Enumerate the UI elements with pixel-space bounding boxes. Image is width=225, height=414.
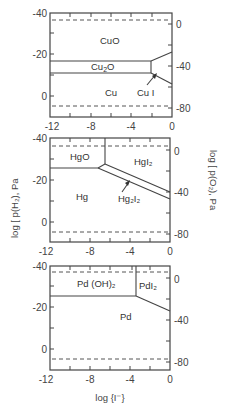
panel-frame <box>50 138 170 242</box>
x-tick-label: -8 <box>87 121 96 132</box>
y-right-tick-label: -40 <box>176 61 191 72</box>
boundary-hgo-hg2i2 <box>98 164 105 168</box>
y-right-tick-label: -80 <box>174 229 189 240</box>
x-tick-label: -8 <box>86 374 95 385</box>
y-right-tick-label: 0 <box>176 19 182 30</box>
y-left-tick-label: 0 <box>41 91 47 102</box>
y-left-tick-label: -40 <box>33 261 48 272</box>
region-label-hgo: HgO <box>70 151 90 162</box>
y-left-tick-label: -20 <box>33 175 48 186</box>
x-tick-label: -4 <box>126 246 135 257</box>
y-axis-left-title: log [ p(H₂), Pa <box>9 178 20 238</box>
y-left-tick-label: 0 <box>41 344 47 355</box>
x-tick-label: 0 <box>167 246 173 257</box>
region-label-hgi2: HgI₂ <box>134 156 153 167</box>
y-right-tick-label: -40 <box>174 315 189 326</box>
x-tick-label: -4 <box>126 374 135 385</box>
y-left-tick-label: -40 <box>33 133 48 144</box>
y-axis-right-title: log [ p(O₂), Pa <box>208 150 219 211</box>
y-right-tick-label: 0 <box>174 146 180 157</box>
x-tick-label: -8 <box>86 246 95 257</box>
boundary-pdi2-pd <box>136 296 170 311</box>
x-tick-label: 0 <box>167 374 173 385</box>
y-right-tick-label: -40 <box>174 187 189 198</box>
region-label-hg2i2: Hg₂I₂ <box>118 193 140 204</box>
x-tick-label: -12 <box>39 374 54 385</box>
boundary-cuo-cui <box>151 52 172 61</box>
y-left-tick-label: -40 <box>33 8 48 19</box>
panel-palladium: Pd (OH)₂ PdI₂ Pd -40 -20 0 0 -40 -80 -12… <box>33 261 189 403</box>
x-tick-label: -12 <box>45 121 60 132</box>
y-left-tick-label: -20 <box>33 302 48 313</box>
region-label-pdoh2: Pd (OH)₂ <box>77 278 116 289</box>
y-right-tick-label: -80 <box>176 103 191 114</box>
panel-copper: CuO Cu2O Cu Cu I -40 -20 0 0 -40 -80 -12… <box>33 8 191 132</box>
region-label-cu2o: Cu2O <box>91 61 114 73</box>
y-left-tick-label: 0 <box>41 217 47 228</box>
region-label-cu: Cu <box>105 87 117 98</box>
region-label-pdi2: PdI₂ <box>139 280 157 291</box>
x-tick-label: -12 <box>39 246 54 257</box>
region-label-cui: Cu I <box>137 87 154 98</box>
region-label-pd: Pd <box>120 311 132 322</box>
boundary-hgi2-hg2i2 <box>105 164 170 192</box>
y-left-tick-label: -20 <box>33 49 48 60</box>
y-right-tick-label: 0 <box>174 274 180 285</box>
x-tick-label: 0 <box>169 121 175 132</box>
boundary-cu-cui <box>151 73 172 84</box>
panel-mercury: HgO HgI₂ Hg Hg₂I₂ -40 -20 0 0 -40 -80 -1… <box>9 133 219 257</box>
x-axis-title: log {I⁻} <box>95 392 124 403</box>
region-label-cuo: CuO <box>100 35 120 46</box>
region-label-hg: Hg <box>76 191 88 202</box>
x-tick-label: -4 <box>127 121 136 132</box>
potential-diagram-figure: CuO Cu2O Cu Cu I -40 -20 0 0 -40 -80 -12… <box>0 0 225 414</box>
y-right-tick-label: -80 <box>174 357 189 368</box>
